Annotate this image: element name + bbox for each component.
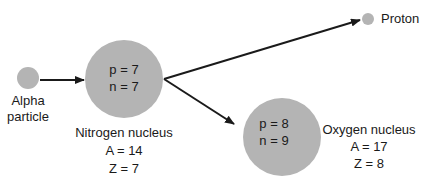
oxygen-arrow [164, 79, 234, 124]
nitrogen-label: Nitrogen nucleus A = 14 Z = 7 [64, 124, 184, 178]
oxygen-mass-number: A = 17 [313, 138, 425, 155]
nitrogen-name: Nitrogen nucleus [64, 124, 184, 142]
oxygen-atomic-number: Z = 8 [313, 155, 425, 172]
alpha-label-line1: Alpha [4, 93, 52, 109]
oxygen-name: Oxygen nucleus [313, 121, 425, 138]
proton [362, 13, 374, 25]
alpha-label-line2: particle [4, 109, 52, 125]
oxygen-protons: p = 8 [254, 115, 294, 132]
nitrogen-mass-number: A = 14 [64, 142, 184, 160]
oxygen-label: Oxygen nucleus A = 17 Z = 8 [313, 121, 425, 172]
oxygen-composition: p = 8 n = 9 [254, 115, 294, 149]
nitrogen-neutrons: n = 7 [104, 78, 144, 95]
alpha-label: Alpha particle [4, 93, 52, 125]
nitrogen-protons: p = 7 [104, 61, 144, 78]
nitrogen-composition: p = 7 n = 7 [104, 61, 144, 95]
proton-label: Proton [381, 11, 419, 27]
nitrogen-atomic-number: Z = 7 [64, 160, 184, 178]
alpha-particle [17, 67, 39, 89]
oxygen-neutrons: n = 9 [254, 132, 294, 149]
proton-arrow [164, 20, 360, 79]
